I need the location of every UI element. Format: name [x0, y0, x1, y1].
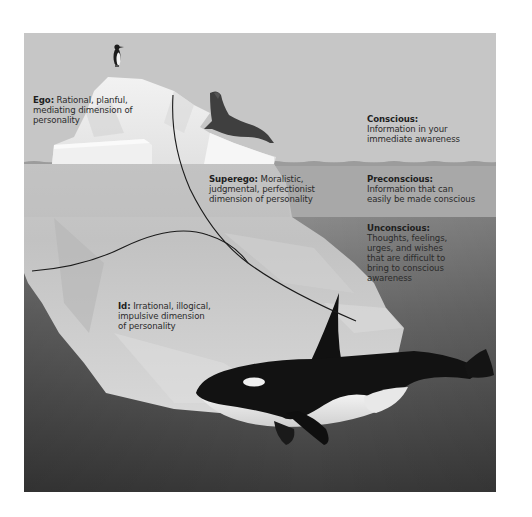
ego-label: Ego: Rational, planful, mediating dimens…: [33, 95, 133, 125]
conscious-term: Conscious:: [367, 114, 418, 124]
id-label: Id: Irrational, illogical, impulsive dim…: [118, 301, 211, 331]
unconscious-level-label: Unconscious: Thoughts, feelings, urges, …: [367, 223, 447, 283]
iceberg-diagram: Ego: Rational, planful, mediating dimens…: [24, 33, 496, 492]
preconscious-level-label: Preconscious: Information that can easil…: [367, 174, 475, 204]
superego-term: Superego:: [209, 174, 258, 184]
conscious-level-label: Conscious: Information in your immediate…: [367, 114, 460, 144]
ego-term: Ego:: [33, 95, 54, 105]
superego-label: Superego: Moralistic, judgmental, perfec…: [209, 174, 315, 204]
preconscious-term: Preconscious:: [367, 174, 433, 184]
id-term: Id:: [118, 301, 131, 311]
unconscious-term: Unconscious:: [367, 223, 430, 233]
